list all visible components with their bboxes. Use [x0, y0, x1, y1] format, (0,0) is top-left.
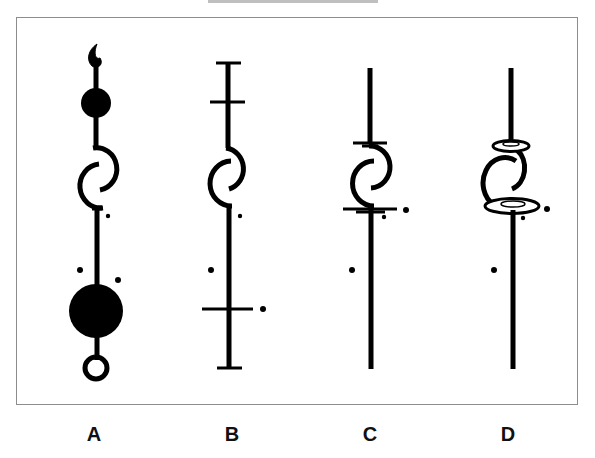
dot: [77, 267, 83, 273]
panel-label-d: D: [488, 423, 528, 446]
flame-icon: [89, 44, 102, 67]
spiral-upper-arc: [226, 148, 243, 189]
spiral-upper-arc: [93, 148, 117, 190]
figure-drawing: [0, 0, 595, 458]
panel-label-a: A: [74, 423, 114, 446]
dot: [544, 206, 550, 212]
panel-a-drawing: [69, 44, 123, 379]
dot: [382, 215, 386, 219]
spiral-lower-arc: [353, 161, 374, 206]
dot: [521, 216, 525, 220]
dot: [260, 306, 266, 312]
spiral-upper-arc: [512, 150, 525, 189]
dot: [106, 214, 110, 218]
panel-d-drawing: [483, 68, 550, 369]
dot: [349, 267, 355, 273]
small-filled-circle-icon: [81, 88, 111, 118]
spiral-upper-arc: [369, 146, 390, 188]
panel-label-b: B: [212, 423, 252, 446]
dot: [403, 207, 409, 213]
spiral-lower-arc: [80, 164, 103, 208]
panel-c-drawing: [343, 68, 409, 369]
panel-b-drawing: [202, 63, 266, 368]
dot: [115, 277, 121, 283]
dot: [238, 214, 242, 218]
dot: [491, 267, 497, 273]
panel-label-c: C: [350, 423, 390, 446]
large-filled-circle-icon: [69, 284, 123, 338]
dot: [208, 267, 214, 273]
ring-icon: [85, 357, 107, 379]
spiral-lower-arc: [210, 161, 232, 206]
